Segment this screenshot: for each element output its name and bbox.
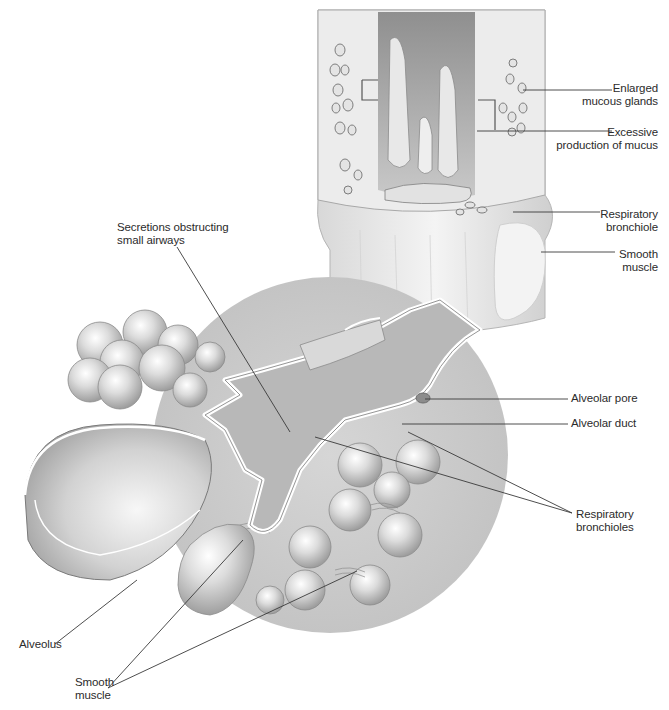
- label-excessive-mucus: Excessive production of mucus: [540, 126, 658, 152]
- label-secretions: Secretions obstructing small airways: [117, 221, 277, 247]
- label-enlarged-mucous-glands: Enlarged mucous glands: [540, 82, 658, 108]
- label-alveolar-duct: Alveolar duct: [571, 417, 666, 430]
- alveoli-cluster-upper: [68, 310, 225, 409]
- label-respiratory-bronchioles: Respiratory bronchioles: [576, 508, 666, 534]
- label-alveolar-pore: Alveolar pore: [571, 392, 666, 405]
- label-smooth-muscle-bottom: Smooth muscle: [75, 676, 135, 702]
- label-respiratory-bronchiole: Respiratory bronchiole: [560, 208, 658, 234]
- diagram-canvas: Enlarged mucous glands Excessive product…: [0, 0, 669, 710]
- label-alveolus: Alveolus: [19, 638, 79, 651]
- label-smooth-muscle-top: Smooth muscle: [580, 248, 658, 274]
